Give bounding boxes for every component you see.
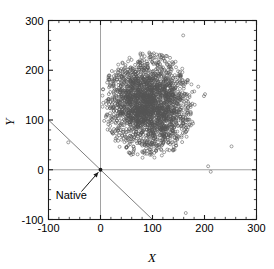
scatter-point: [182, 109, 185, 112]
scatter-point: [153, 151, 156, 154]
scatter-point: [101, 94, 104, 97]
scatter-point: [103, 119, 106, 122]
y-tick-label: 300: [25, 15, 43, 27]
scatter-point: [109, 112, 112, 115]
scatter-point: [181, 131, 184, 134]
scatter-point: [176, 80, 179, 83]
scatter-point: [186, 81, 189, 84]
native-annotation-label: Native: [56, 189, 87, 201]
scatter-point: [110, 70, 113, 73]
scatter-point: [143, 55, 146, 58]
x-tick-label: 100: [143, 222, 161, 234]
scatter-point: [166, 148, 169, 151]
y-axis-tick-labels: -1000100200300: [21, 15, 43, 226]
scatter-point: [172, 82, 175, 85]
scatter-point: [125, 128, 128, 131]
scatter-point: [169, 56, 172, 59]
scatter-point: [153, 156, 156, 159]
scatter-point: [128, 56, 131, 59]
scatter-point: [118, 145, 121, 148]
scatter-point: [114, 71, 117, 74]
scatter-points-layer: [67, 34, 233, 215]
native-annotation: Native: [56, 168, 103, 201]
scatter-point: [190, 83, 193, 86]
native-point-marker: [99, 168, 103, 172]
scatter-point: [143, 58, 146, 61]
scatter-point-outlier: [209, 170, 212, 173]
x-tick-label: 300: [247, 222, 265, 234]
scatter-point: [191, 90, 194, 93]
scatter-point-outlier: [207, 165, 210, 168]
scatter-point: [109, 91, 112, 94]
y-tick-label: 0: [37, 164, 43, 176]
scatter-point: [193, 90, 196, 93]
scatter-point: [107, 93, 110, 96]
scatter-point: [176, 130, 179, 133]
scatter-point: [102, 101, 105, 104]
scatter-point: [105, 103, 108, 106]
scatter-point: [107, 120, 110, 123]
x-tick-label: 200: [195, 222, 213, 234]
scatter-point: [168, 149, 171, 152]
x-axis-title: X: [147, 250, 157, 265]
x-axis-tick-labels: -1000100200300: [37, 222, 265, 234]
scatter-point: [171, 141, 174, 144]
scatter-point-outlier: [67, 141, 70, 144]
scatter-point: [181, 67, 184, 70]
scatter-point: [171, 63, 174, 66]
scatter-point-outlier: [230, 145, 233, 148]
scatter-point: [127, 60, 130, 63]
x-tick-label: 0: [97, 222, 103, 234]
y-tick-label: -100: [21, 214, 43, 226]
plot-canvas: -1000100200300 -1000100200300 X Y Native: [0, 0, 274, 269]
scatter-point-outlier: [182, 34, 185, 37]
scatter-point: [148, 139, 151, 142]
scatter-point: [101, 105, 104, 108]
scatter-point-outlier: [197, 85, 200, 88]
scatter-point: [178, 87, 181, 90]
scatter-point: [160, 154, 163, 157]
scatter-plot-figure: -1000100200300 -1000100200300 X Y Native: [0, 0, 274, 269]
scatter-point: [185, 135, 188, 138]
y-tick-label: 100: [25, 114, 43, 126]
scatter-point: [193, 103, 196, 106]
scatter-point-outlier: [184, 212, 187, 215]
scatter-point: [106, 81, 109, 84]
y-tick-label: 200: [25, 64, 43, 76]
scatter-point: [181, 141, 184, 144]
scatter-point: [117, 63, 120, 66]
scatter-point: [136, 153, 139, 156]
scatter-point: [175, 66, 178, 69]
scatter-point: [163, 151, 166, 154]
y-axis-title: Y: [2, 117, 17, 126]
scatter-point: [141, 156, 144, 159]
